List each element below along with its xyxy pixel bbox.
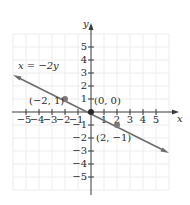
- y-tick-label: 1: [81, 93, 87, 104]
- x-tick-labels: −5 −4 −3 −2 −1 1 2 3 4 5: [17, 114, 160, 125]
- y-tick-label: −2: [72, 132, 87, 143]
- point-label-neg2-1: (−2, 1): [29, 95, 64, 106]
- equation-label: x = −2y: [18, 60, 59, 71]
- point-origin: [88, 109, 94, 115]
- y-tick-label: 3: [81, 67, 87, 78]
- x-tick-label: 3: [127, 114, 133, 125]
- x-axis-label: x: [177, 113, 183, 124]
- line-arrow-right-icon: [161, 148, 170, 154]
- y-axis-arrow-icon: [89, 23, 94, 30]
- y-tick-label: 5: [81, 41, 87, 52]
- point-2-neg1: [114, 122, 120, 128]
- y-tick-label: 2: [81, 80, 87, 91]
- y-tick-label: −5: [72, 171, 87, 182]
- y-axis-label: y: [82, 18, 89, 29]
- point-label-origin: (0, 0): [94, 95, 121, 106]
- y-tick-label: −4: [72, 158, 87, 169]
- y-tick-label: −3: [72, 145, 87, 156]
- line-arrow-left-icon: [13, 75, 22, 81]
- point-label-2-neg1: (2, −1): [96, 132, 131, 143]
- y-tick-label: −1: [72, 119, 87, 130]
- x-tick-label: 4: [140, 114, 146, 125]
- x-tick-label: 5: [153, 114, 159, 125]
- y-tick-label: 4: [81, 54, 87, 65]
- coordinate-plane: x y −5 −4 −3 −2 −1 1 2 3 4 5 5 4 3 2 1 −…: [0, 0, 190, 205]
